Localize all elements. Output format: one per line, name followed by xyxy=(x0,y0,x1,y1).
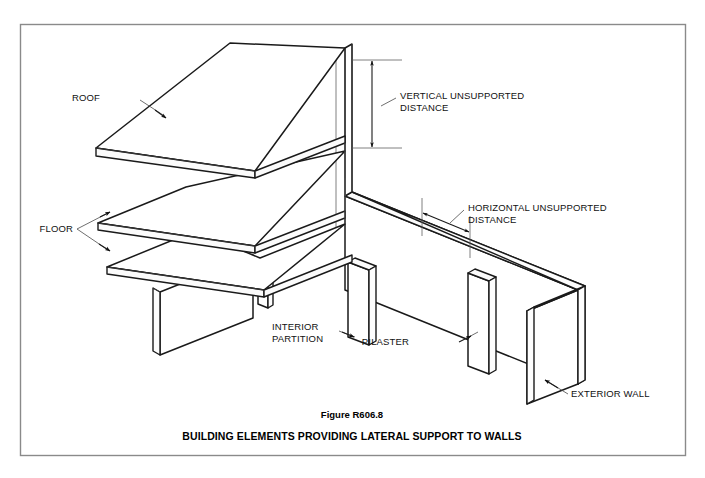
exterior-wall xyxy=(345,192,585,404)
exterior-wall-corner-sliver xyxy=(578,286,585,384)
floor-callout: FLOOR xyxy=(40,212,110,251)
figure-drawing-canvas: VERTICAL UNSUPPORTED DISTANCE HORIZONTAL… xyxy=(0,0,705,478)
pilaster-label: PILASTER xyxy=(362,336,409,347)
lower-support-wall-left-edge xyxy=(153,288,160,355)
figure-caption: Figure R606.8 BUILDING ELEMENTS PROVIDIN… xyxy=(182,409,521,442)
corner-pier xyxy=(348,258,376,345)
roof-label: ROOF xyxy=(72,92,100,103)
vertical-unsupported-label-line2: DISTANCE xyxy=(400,102,449,113)
corner-pier-front-face xyxy=(348,262,369,345)
floor-label: FLOOR xyxy=(40,223,73,234)
exterior-wall-return-edge xyxy=(527,307,534,404)
vertical-unsupported-label-line1: VERTICAL UNSUPPORTED xyxy=(400,90,524,101)
figure-container: VERTICAL UNSUPPORTED DISTANCE HORIZONTAL… xyxy=(0,0,705,478)
horizontal-dim-leader xyxy=(450,210,464,223)
horizontal-unsupported-label-line2: DISTANCE xyxy=(468,214,517,225)
figure-number: Figure R606.8 xyxy=(321,409,383,420)
figure-title: BUILDING ELEMENTS PROVIDING LATERAL SUPP… xyxy=(182,430,521,442)
corner-pier-side-face xyxy=(369,266,376,345)
pilaster xyxy=(468,269,496,374)
exterior-wall-label: EXTERIOR WALL xyxy=(571,388,650,399)
vertical-unsupported-dimension: VERTICAL UNSUPPORTED DISTANCE xyxy=(352,60,524,148)
interior-partition-label-line2: PARTITION xyxy=(272,333,323,344)
vertical-dim-leader xyxy=(381,98,396,106)
pilaster-side-face xyxy=(489,277,496,374)
horizontal-unsupported-label-line1: HORIZONTAL UNSUPPORTED xyxy=(468,202,607,213)
corner-column-face xyxy=(345,44,352,196)
interior-partition-label-line1: INTERIOR xyxy=(272,321,319,332)
interior-partition-callout: INTERIOR PARTITION xyxy=(272,321,355,344)
roof-slab xyxy=(96,43,345,178)
floor-leader-upper-arrow xyxy=(100,212,110,217)
floor-leader-lower-arrow xyxy=(99,244,110,251)
pilaster-front-face xyxy=(468,273,489,374)
